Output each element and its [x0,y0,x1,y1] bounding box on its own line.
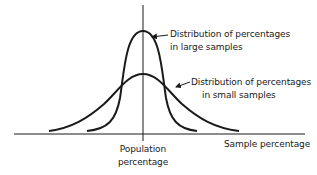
x-axis-label: Sample percentage [224,138,310,151]
large-samples-label-line1: Distribution of percentages [170,28,290,41]
population-percentage-label: Population percentage [118,143,168,169]
small-samples-label-line2: in small samples [191,89,311,102]
large-samples-label-line2: in large samples [170,41,290,54]
diagram-canvas: Distribution of percentages in large sam… [0,0,317,175]
population-label-line2: percentage [118,156,168,169]
large-samples-arrow [152,35,168,37]
small-samples-label: Distribution of percentages in small sam… [191,76,311,102]
population-label-line1: Population [118,143,168,156]
small-samples-arrow [176,82,190,87]
large-samples-label: Distribution of percentages in large sam… [170,28,290,54]
small-samples-label-line1: Distribution of percentages [191,76,311,89]
